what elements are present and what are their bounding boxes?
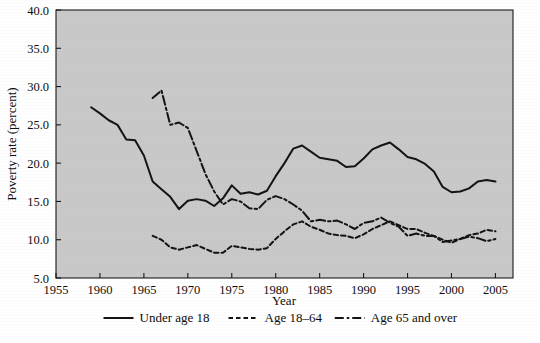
legend-label: Age 65 and over [371,310,458,325]
y-tick-label: 15.0 [27,195,49,209]
x-tick-label: 1970 [175,283,200,297]
x-tick-label: 1955 [44,283,69,297]
x-tick-label: 1990 [351,283,376,297]
y-tick-label: 30.0 [27,80,49,94]
x-axis-title: Year [272,293,297,308]
y-axis-title: Poverty rate (percent) [4,87,19,200]
y-tick-label: 10.0 [27,233,49,247]
plot-background [56,10,513,278]
y-tick-label: 20.0 [27,157,49,171]
legend-label: Under age 18 [140,310,210,325]
x-tick-label: 1960 [87,283,112,297]
x-tick-label: 1985 [307,283,332,297]
x-tick-label: 2005 [483,283,508,297]
legend-label: Age 18–64 [265,310,323,325]
x-tick-label: 1965 [131,283,156,297]
poverty-rate-chart-figure: 5.010.015.020.025.030.035.040.0 19551960… [0,0,540,343]
y-tick-label: 25.0 [27,118,49,132]
y-tick-label: 35.0 [27,42,49,56]
y-tick-label: 40.0 [27,4,49,18]
x-tick-label: 2000 [439,283,464,297]
x-tick-label: 1975 [219,283,244,297]
x-tick-label: 1995 [395,283,420,297]
chart-legend: Under age 18Age 18–64Age 65 and over [104,310,458,325]
chart-canvas: 5.010.015.020.025.030.035.040.0 19551960… [0,0,540,343]
